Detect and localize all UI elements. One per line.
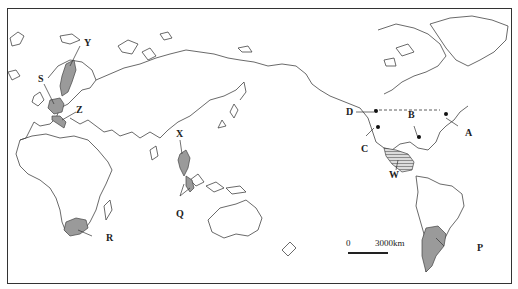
africa-outline <box>16 134 112 234</box>
leader-s <box>44 84 54 104</box>
point-b <box>417 135 421 139</box>
australia-outline <box>208 200 296 256</box>
scale-zero: 0 <box>346 238 351 248</box>
label-x: X <box>176 129 183 139</box>
point-a <box>444 112 448 116</box>
label-s: S <box>38 74 44 84</box>
label-c: C <box>361 144 368 154</box>
label-p: P <box>477 243 483 253</box>
label-q: Q <box>176 209 184 219</box>
point-c <box>376 125 380 129</box>
asia-outline <box>120 32 312 194</box>
region-southeast-asia <box>178 150 190 176</box>
scale-bar <box>348 252 388 254</box>
world-map <box>0 0 518 289</box>
label-d: D <box>346 107 353 117</box>
leader-y <box>70 46 80 66</box>
region-south-africa <box>64 218 88 236</box>
region-sweden <box>60 60 76 96</box>
region-france <box>48 98 64 114</box>
leader-z <box>62 112 76 120</box>
point-d <box>374 109 378 113</box>
region-argentina <box>422 226 446 272</box>
label-r: R <box>106 233 113 243</box>
scale-distance: 3000km <box>375 238 405 248</box>
leader-x <box>180 140 182 154</box>
label-a: A <box>465 128 472 138</box>
label-w: W <box>389 170 399 180</box>
region-italy <box>52 116 66 128</box>
label-b: B <box>408 110 415 120</box>
north-america-outline <box>312 16 508 150</box>
label-z: Z <box>76 105 83 115</box>
europe-outline <box>8 32 170 140</box>
label-y: Y <box>84 38 91 48</box>
